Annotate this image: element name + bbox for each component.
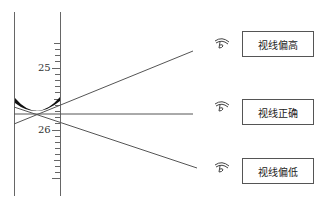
scale-label-25: 25 [38, 62, 51, 73]
eye-icon [214, 99, 230, 113]
eye-icon [214, 36, 230, 50]
eye-icon [214, 160, 230, 174]
scale-ticks [52, 44, 60, 179]
label-sight-correct: 视线正确 [242, 99, 314, 125]
label-sight-low: 视线偏低 [242, 158, 314, 184]
scale-label-26: 26 [38, 124, 51, 135]
sight-line-low [14, 107, 197, 168]
meniscus [15, 97, 60, 111]
label-sight-high: 视线偏高 [242, 31, 314, 57]
